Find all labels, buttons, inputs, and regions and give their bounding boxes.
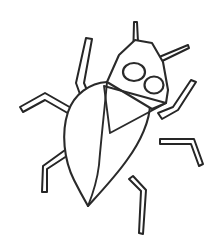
- bug-illustration: [0, 0, 215, 251]
- drawing-canvas: Bug Line Drawing beetle black-and-white …: [0, 0, 215, 251]
- eye-right: [145, 77, 164, 94]
- eye-left: [123, 63, 145, 81]
